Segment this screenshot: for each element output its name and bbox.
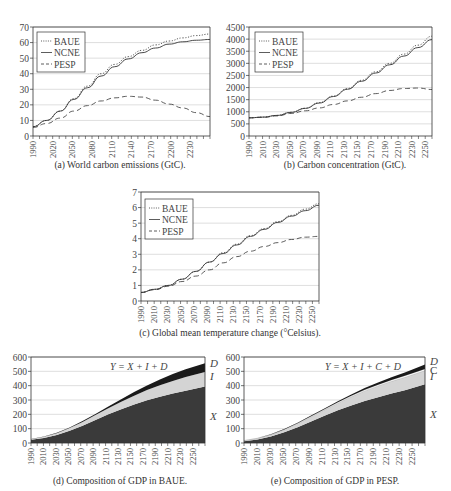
x-tick-label: 2110 <box>317 448 327 465</box>
equation-annotation: Y = X + I + C + D <box>325 361 402 372</box>
x-tick-label: 2230 <box>394 448 404 465</box>
y-tick-label: 100 <box>226 424 241 434</box>
y-tick-label: 300 <box>226 396 241 406</box>
y-tick-label: 200 <box>226 410 241 420</box>
y-tick-label: 600 <box>226 353 241 363</box>
x-tick-label: 1990 <box>239 448 249 465</box>
y-tick-label: 500 <box>226 367 241 377</box>
y-tick-label: 0 <box>235 439 240 449</box>
x-tick-label: 2130 <box>330 448 340 465</box>
x-tick-label: 2190 <box>368 448 378 465</box>
x-tick-label: 2030 <box>265 448 275 465</box>
y-tick-label: 400 <box>226 381 241 391</box>
series-label-X: X <box>429 408 438 420</box>
x-tick-label: 2050 <box>278 448 288 465</box>
x-tick-label: 2070 <box>291 448 301 465</box>
chart-e-group: DCIXY = X + I + C + D0100200300400500600… <box>226 353 438 466</box>
x-tick-label: 2210 <box>381 448 391 465</box>
x-tick-label: 2250 <box>407 448 417 465</box>
x-tick-label: 2150 <box>342 448 352 465</box>
x-tick-label: 2090 <box>304 448 314 465</box>
chart-e-gdp-pesp: DCIXY = X + I + C + D0100200300400500600… <box>0 0 451 491</box>
caption-e: (e) Composition of GDP in PESP. <box>235 476 435 486</box>
x-tick-label: 2010 <box>252 448 262 465</box>
x-tick-label: 2170 <box>355 448 365 465</box>
chart-e-svg: DCIXY = X + I + C + D0100200300400500600… <box>0 0 451 491</box>
